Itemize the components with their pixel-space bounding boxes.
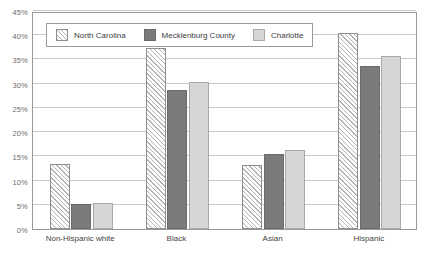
bar: [264, 154, 284, 229]
y-axis-tick-label: 20%: [0, 129, 28, 138]
bar: [50, 164, 70, 229]
x-axis-category-label: Non-Hispanic white: [46, 234, 115, 243]
bar-chart: 0%5%10%15%20%25%30%35%40%45% Non-Hispani…: [0, 0, 430, 263]
bar: [381, 56, 401, 229]
gridline: [33, 83, 416, 84]
y-axis-tick-label: 40%: [0, 32, 28, 41]
gridline: [33, 10, 416, 11]
y-axis-tick-label: 15%: [0, 153, 28, 162]
gridline: [33, 180, 416, 181]
y-axis-tick-label: 45%: [0, 8, 28, 17]
legend-swatch-icon: [144, 29, 156, 41]
y-axis-tick-label: 5%: [0, 202, 28, 211]
bar: [71, 204, 91, 229]
bar: [93, 203, 113, 229]
chart-legend: North CarolinaMecklenburg CountyCharlott…: [46, 23, 313, 47]
gridline: [33, 107, 416, 108]
x-axis-category-label: Black: [167, 234, 187, 243]
bar: [146, 48, 166, 229]
legend-label: Mecklenburg County: [162, 31, 235, 40]
bar: [167, 90, 187, 229]
legend-label: Charlotte: [271, 31, 303, 40]
bar: [338, 33, 358, 229]
y-axis-tick-label: 10%: [0, 178, 28, 187]
gridline: [33, 131, 416, 132]
bar: [285, 150, 305, 229]
bar: [189, 82, 209, 229]
legend-swatch-icon: [56, 29, 68, 41]
x-axis-category-label: Hispanic: [354, 234, 385, 243]
y-axis-tick-label: 35%: [0, 56, 28, 65]
bar: [242, 165, 262, 229]
legend-swatch-icon: [253, 29, 265, 41]
y-axis-tick-label: 0%: [0, 226, 28, 235]
x-axis-category-label: Asian: [263, 234, 283, 243]
y-axis-tick-label: 30%: [0, 81, 28, 90]
y-axis-tick-label: 25%: [0, 105, 28, 114]
gridline: [33, 58, 416, 59]
legend-entry: Charlotte: [253, 29, 303, 41]
legend-entry: North Carolina: [56, 29, 126, 41]
legend-label: North Carolina: [74, 31, 126, 40]
legend-entry: Mecklenburg County: [144, 29, 235, 41]
bar: [360, 66, 380, 229]
gridline: [33, 155, 416, 156]
